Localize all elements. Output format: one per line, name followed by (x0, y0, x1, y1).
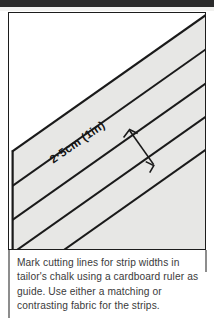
illustration-frame: 2·5cm (1in) (8, 12, 206, 250)
caption-line: Mark cutting lines for strip widths in (17, 256, 203, 270)
caption-line: contrasting fabric for the strips. (17, 299, 203, 313)
scan-rule-right (205, 250, 207, 272)
caption-block: Mark cutting lines for strip widths in t… (17, 256, 203, 314)
fabric-diagram-svg: 2·5cm (1in) (9, 13, 205, 249)
top-seam (0, 7, 214, 11)
top-dark-band (0, 0, 214, 7)
caption-line: guide. Use either a matching or (17, 285, 203, 299)
caption-line: tailor's chalk using a cardboard ruler a… (17, 270, 203, 284)
scan-rule-left (8, 250, 10, 318)
page-root: 2·5cm (1in) Mark cutting lines for strip… (0, 0, 214, 318)
